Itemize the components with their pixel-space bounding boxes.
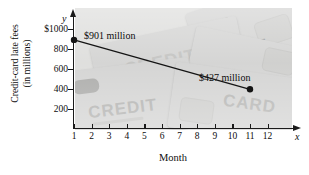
annotation-427-million: $427 million: [199, 72, 250, 83]
chart-figure: CREDIT CREDIT CARD CARD CREDIT CARD y x …: [0, 0, 309, 175]
data-point-month-1: [71, 37, 77, 43]
annotation-901-million: $901 million: [84, 30, 135, 41]
data-point-month-11: [247, 86, 253, 92]
data-series-line: [0, 0, 309, 175]
